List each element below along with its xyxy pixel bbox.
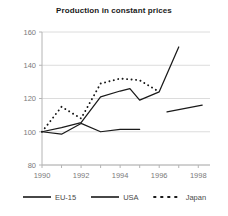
legend-label-eu15: EU-15 <box>55 193 76 202</box>
y-tick-label-160: 160 <box>23 28 36 37</box>
legend-swatch-japan <box>153 193 183 201</box>
x-tick-label-1990: 1990 <box>34 171 51 180</box>
legend-item-japan[interactable]: Japan <box>153 193 206 202</box>
gridlines <box>42 32 210 165</box>
legend-label-japan: Japan <box>186 193 206 202</box>
y-tick-label-140: 140 <box>23 61 36 70</box>
data-series-group <box>42 47 202 134</box>
series-line-japan <box>42 79 159 132</box>
chart-legend: EU-15 USA Japan <box>0 186 228 208</box>
x-tick-label-1992: 1992 <box>73 171 90 180</box>
y-axis-tick-labels: 80100120140160 <box>23 28 36 170</box>
legend-swatch-usa <box>90 193 120 201</box>
x-axis-tick-labels: 19901992199419961998 <box>34 171 207 180</box>
y-tick-label-120: 120 <box>23 94 36 103</box>
x-tick-label-1994: 1994 <box>112 171 129 180</box>
x-tick-label-1996: 1996 <box>151 171 168 180</box>
legend-item-eu15[interactable]: EU-15 <box>22 193 76 202</box>
y-tick-label-80: 80 <box>28 161 36 170</box>
chart-container: Production in constant prices 8010012014… <box>0 0 228 216</box>
legend-swatch-eu15 <box>22 193 52 201</box>
series-line-usa-second <box>167 105 202 112</box>
legend-item-usa[interactable]: USA <box>90 193 138 202</box>
y-tick-label-100: 100 <box>23 128 36 137</box>
series-line-eu-15 <box>42 47 179 132</box>
chart-plot-area: 80100120140160 19901992199419961998 <box>0 0 228 216</box>
tick-marks <box>39 32 198 168</box>
x-tick-label-1998: 1998 <box>190 171 207 180</box>
legend-label-usa: USA <box>123 193 138 202</box>
